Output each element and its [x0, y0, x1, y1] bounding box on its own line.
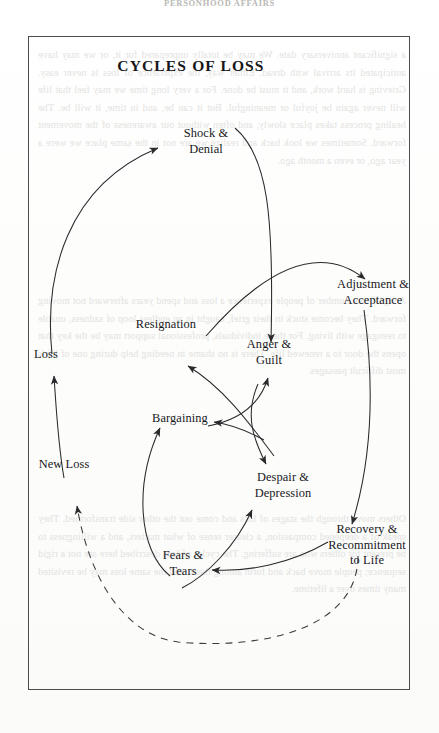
node-loss[interactable]: Loss [20, 347, 72, 363]
node-recovery-recommitment[interactable]: Recovery & Recommitment to Life [308, 522, 426, 569]
node-anger-guilt[interactable]: Anger & Guilt [229, 337, 309, 368]
node-adjustment-acceptance[interactable]: Adjustment & Acceptance [314, 277, 432, 308]
node-bargaining[interactable]: Bargaining [138, 411, 222, 427]
running-head: PERSONHOOD AFFAIRS [0, 0, 439, 7]
node-despair-depression[interactable]: Despair & Depression [235, 470, 331, 501]
node-fears-tears[interactable]: Fears & Tears [147, 548, 219, 579]
node-resignation[interactable]: Resignation [116, 317, 216, 333]
node-new-loss[interactable]: New Loss [26, 457, 102, 473]
figure-title: CYCLES OF LOSS [0, 57, 382, 75]
node-shock-denial[interactable]: Shock & Denial [160, 126, 252, 157]
